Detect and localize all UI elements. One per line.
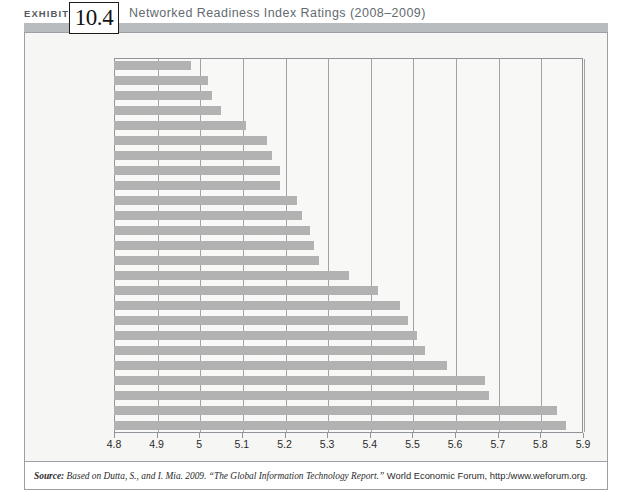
bar xyxy=(114,256,319,265)
bar xyxy=(114,361,447,370)
chart-row: Switzerland xyxy=(114,358,583,373)
chart-row: Japan xyxy=(114,178,583,193)
chart-row: Australia xyxy=(114,223,583,238)
chart-row: Belgium xyxy=(114,73,583,88)
bar xyxy=(114,136,267,145)
bar xyxy=(114,241,314,250)
chart-row: Israel xyxy=(114,58,583,73)
chart-row: S. Korea xyxy=(114,268,583,283)
bar xyxy=(114,271,349,280)
chart-row: Denmark xyxy=(114,418,583,433)
source-publisher: World Economic Forum, http:/www.weforum.… xyxy=(384,470,588,481)
bar xyxy=(114,391,489,400)
bar xyxy=(114,376,485,385)
chart-row: Norway xyxy=(114,313,583,328)
bar xyxy=(114,61,191,70)
chart-row: Luxembourg xyxy=(114,118,583,133)
bar xyxy=(114,196,297,205)
bar xyxy=(114,226,310,235)
chart-row: Germany xyxy=(114,133,583,148)
bar xyxy=(114,301,400,310)
source-note: Source: Based on Dutta, S., and I. Mia. … xyxy=(24,462,608,490)
bar xyxy=(114,106,221,115)
source-lead: Source: xyxy=(34,471,64,481)
chart-row: Sweden xyxy=(114,403,583,418)
chart-row: Singapore xyxy=(114,373,583,388)
bar xyxy=(114,121,246,130)
chart-row: Netherlands xyxy=(114,298,583,313)
bar xyxy=(114,151,272,160)
chart-row: Ireland xyxy=(114,88,583,103)
source-citation: Based on Dutta, S., and I. Mia. 2009. “T… xyxy=(64,471,384,481)
page-title: Networked Readiness Index Ratings (2008–… xyxy=(129,6,426,20)
bar xyxy=(114,181,280,190)
bar xyxy=(114,76,208,85)
chart-row: Finland xyxy=(114,343,583,358)
chart-row: New Zealand xyxy=(114,103,583,118)
chart-row: Iceland xyxy=(114,328,583,343)
exhibit-number-box: 10.4 xyxy=(69,2,119,34)
chart-row: Estonia xyxy=(114,163,583,178)
chart-row: Taiwan xyxy=(114,238,583,253)
bar xyxy=(114,91,212,100)
chart-row: France xyxy=(114,148,583,163)
exhibit-number: 10.4 xyxy=(70,3,118,33)
bar xyxy=(114,406,557,415)
bar xyxy=(114,286,378,295)
chart-row: Hong Kong xyxy=(114,253,583,268)
bar xyxy=(114,166,280,175)
chart-row: U.K. xyxy=(114,208,583,223)
source-note-text: Source: Based on Dutta, S., and I. Mia. … xyxy=(34,470,588,481)
bar xyxy=(114,331,417,340)
chart-row: United States xyxy=(114,388,583,403)
bar xyxy=(114,346,425,355)
chart-row: Cananda xyxy=(114,283,583,298)
bar xyxy=(114,211,302,220)
bar xyxy=(114,421,566,430)
exhibit-label: EXHIBIT xyxy=(24,8,69,19)
gridline-5.9 xyxy=(584,59,585,432)
chart-row: Austria xyxy=(114,193,583,208)
bar xyxy=(114,316,408,325)
